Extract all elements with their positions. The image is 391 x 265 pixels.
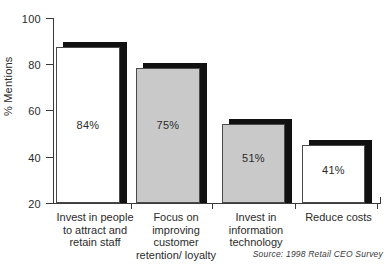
category-label-3-line-2: information xyxy=(216,224,296,237)
category-label-1-line-3: retain staff xyxy=(52,236,138,249)
bar-value-label-1: 84% xyxy=(56,119,120,131)
x-tick-4 xyxy=(377,204,378,209)
y-tick-label-60: 60 xyxy=(28,105,41,117)
x-axis-line xyxy=(53,203,380,204)
category-label-3: Invest in information technology xyxy=(216,211,296,249)
bar-value-label-2: 75% xyxy=(136,119,200,131)
source-note: Source: 1998 Retail CEO Survey xyxy=(253,249,383,259)
y-tick-label-100: 100 xyxy=(22,13,41,25)
y-tick-label-40: 40 xyxy=(28,152,41,164)
category-label-4: Reduce costs xyxy=(297,211,380,224)
category-label-1-line-1: Invest in people xyxy=(52,211,138,224)
category-label-1: Invest in people to attract and retain s… xyxy=(52,211,138,249)
category-label-3-line-1: Invest in xyxy=(216,211,296,224)
y-tick-40: 40 xyxy=(46,157,54,158)
bar-value-label-4: 41% xyxy=(302,164,365,176)
y-tick-label-20: 20 xyxy=(28,198,41,210)
category-label-2-line-4: retention/ loyalty xyxy=(131,249,221,262)
y-tick-label-80: 80 xyxy=(28,59,41,71)
category-label-2: Focus on improving customer retention/ l… xyxy=(131,211,221,261)
category-label-2-line-3: customer xyxy=(131,236,221,249)
bar-value-label-3: 51% xyxy=(222,152,285,164)
bar-chart-figure: 100 80 60 40 20 % Mentions 84% 75% 51% 4… xyxy=(0,0,391,265)
category-label-2-line-2: improving xyxy=(131,224,221,237)
category-label-3-line-3: technology xyxy=(216,236,296,249)
y-tick-100: 100 xyxy=(46,18,54,19)
category-label-2-line-1: Focus on xyxy=(131,211,221,224)
y-axis-title: % Mentions xyxy=(2,26,14,116)
x-axis-end-cap xyxy=(380,197,381,204)
category-label-4-line-1: Reduce costs xyxy=(297,211,380,224)
category-label-1-line-2: to attract and xyxy=(52,224,138,237)
x-tick-3 xyxy=(295,204,296,209)
x-tick-1 xyxy=(131,204,132,209)
bar-2 xyxy=(136,68,200,203)
x-tick-2 xyxy=(212,204,213,209)
y-tick-80: 80 xyxy=(46,64,54,65)
y-tick-60: 60 xyxy=(46,110,54,111)
